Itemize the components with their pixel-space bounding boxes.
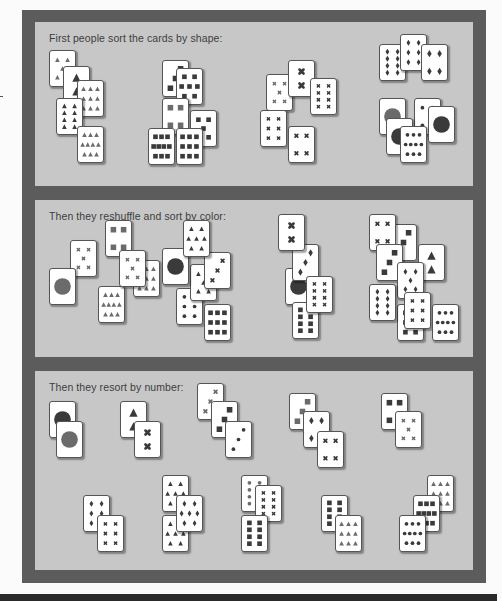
card-10-square: [148, 128, 175, 165]
margin-tick-mark: [0, 96, 3, 97]
panel-caption: Then they resort by number:: [49, 381, 184, 393]
cross-icon: [98, 516, 123, 551]
card-4-cross: [317, 431, 344, 468]
card-10-triangle: [77, 126, 104, 163]
triangle-icon: [99, 287, 124, 322]
card-1-circle: [428, 106, 455, 143]
cross-icon: [261, 111, 286, 146]
circle-icon: [429, 107, 454, 142]
circle-icon: [57, 422, 82, 457]
card-1-circle: [56, 421, 83, 458]
cross-icon: [289, 127, 314, 162]
square-icon: [177, 129, 202, 164]
card-8-square: [241, 515, 268, 552]
card-4-diamond: [421, 44, 448, 81]
card-6-cross: [97, 515, 124, 552]
card-1-circle: [49, 268, 76, 305]
triangle-icon: [184, 221, 209, 256]
circle-icon: [400, 516, 425, 551]
card-8-cross: [306, 276, 333, 313]
square-icon: [205, 305, 230, 340]
card-5-cross: [395, 411, 422, 448]
card-2-cross: [278, 214, 305, 251]
card-5-cross: [119, 250, 146, 287]
card-4-cross: [288, 126, 315, 163]
card-3-cross: [204, 252, 231, 289]
card-10-circle: [400, 126, 427, 163]
cross-icon: [135, 422, 160, 457]
triangle-icon: [78, 127, 103, 162]
triangle-icon: [336, 516, 361, 551]
square-icon: [242, 516, 267, 551]
card-9-triangle: [335, 515, 362, 552]
card-10-circle: [432, 304, 459, 341]
card-9-square: [204, 304, 231, 341]
panel-sort-by-number: Then they resort by number:: [35, 371, 473, 570]
card-9-square: [176, 128, 203, 165]
cross-icon: [307, 277, 332, 312]
cross-icon: [405, 293, 430, 328]
card-7-triangle: [183, 220, 210, 257]
diamond-icon: [370, 285, 395, 320]
diagram-frame: First people sort the cards by shape: Th…: [22, 10, 486, 583]
card-3-circle: [225, 421, 252, 458]
page-bottom-rule: [0, 594, 497, 601]
card-6-cross: [260, 110, 287, 147]
diamond-icon: [177, 496, 202, 531]
card-10-circle: [399, 515, 426, 552]
card-7-diamond: [176, 495, 203, 532]
cross-icon: [205, 253, 230, 288]
card-10-triangle: [98, 286, 125, 323]
diamond-icon: [422, 45, 447, 80]
cross-icon: [318, 432, 343, 467]
panel-sort-by-shape: First people sort the cards by shape:: [35, 22, 473, 186]
card-2-cross: [134, 421, 161, 458]
circle-icon: [433, 305, 458, 340]
card-8-cross: [310, 78, 337, 115]
circle-icon: [226, 422, 251, 457]
circle-icon: [401, 127, 426, 162]
cross-icon: [279, 215, 304, 250]
square-icon: [149, 129, 174, 164]
cross-icon: [311, 79, 336, 114]
circle-icon: [50, 269, 75, 304]
panel-caption: First people sort the cards by shape:: [49, 32, 223, 44]
card-8-diamond: [369, 284, 396, 321]
card-6-cross: [404, 292, 431, 329]
cross-icon: [120, 251, 145, 286]
cross-icon: [396, 412, 421, 447]
panel-sort-by-color: Then they reshuffle and sort by color:: [35, 200, 473, 357]
